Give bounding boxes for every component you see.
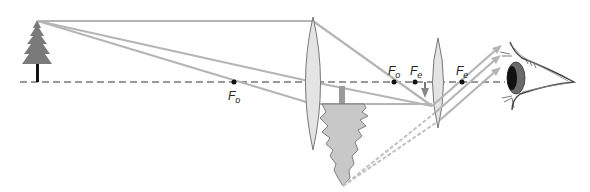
label-fo-left: Fo [228, 89, 240, 105]
label-fo-right: Fo [388, 64, 400, 80]
incident-rays [38, 21, 313, 104]
tree-icon [22, 20, 52, 82]
telescope-ray-diagram: Fo Fo Fe Fe [0, 0, 590, 192]
inverted-tree-image [320, 86, 368, 186]
eyepiece-image-arrow [421, 82, 429, 98]
focal-point-eyepiece-right [460, 80, 465, 85]
objective-lens [306, 17, 321, 150]
focal-point-eyepiece-left [413, 80, 418, 85]
label-fe-left: Fe [410, 64, 422, 80]
label-fe-right: Fe [456, 64, 468, 80]
eye-icon [500, 42, 574, 110]
focal-point-objective-left [232, 80, 237, 85]
focal-point-objective-right [392, 80, 397, 85]
